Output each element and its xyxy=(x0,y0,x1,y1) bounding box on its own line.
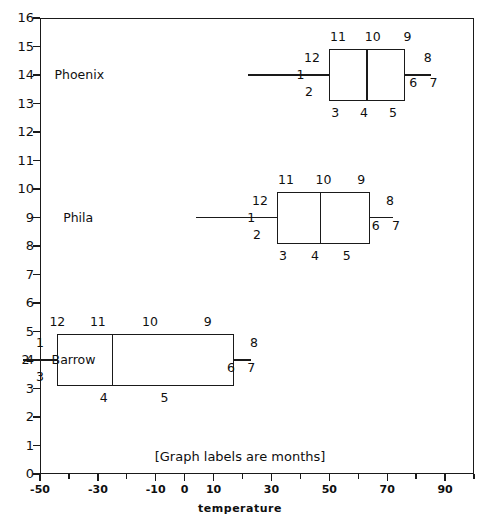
month-label: 7 xyxy=(419,76,447,89)
month-label: 11 xyxy=(272,173,300,186)
x-axis-tick-label: 10 xyxy=(192,484,236,495)
month-label: 1 xyxy=(286,68,314,81)
y-axis-tick-label: 0 xyxy=(2,467,34,480)
y-axis-tick xyxy=(33,302,40,303)
x-axis-minor-tick xyxy=(415,474,416,479)
y-axis-tick-label: 12 xyxy=(2,125,34,138)
y-axis-tick xyxy=(33,74,40,75)
box-barrow xyxy=(57,334,233,386)
month-label: 3 xyxy=(269,249,297,262)
x-axis-minor-tick xyxy=(242,474,243,479)
y-axis-tick-label: 2 xyxy=(2,410,34,423)
y-axis-tick xyxy=(33,103,40,104)
month-label: 11 xyxy=(324,30,352,43)
month-label: 7 xyxy=(237,361,265,374)
series-label-phoenix: Phoenix xyxy=(54,68,104,81)
y-axis-tick-label: 14 xyxy=(2,68,34,81)
y-axis-tick-label: 6 xyxy=(2,296,34,309)
month-label: 2 xyxy=(12,353,40,366)
month-label: 1 xyxy=(237,211,265,224)
month-label: 7 xyxy=(382,219,410,232)
x-axis-tick-label: 50 xyxy=(307,484,351,495)
y-axis-tick xyxy=(33,188,40,189)
y-axis-tick xyxy=(33,274,40,275)
y-axis-tick-label: 7 xyxy=(2,268,34,281)
x-axis-tick xyxy=(329,474,330,481)
x-axis-tick xyxy=(39,474,40,481)
y-axis-tick xyxy=(33,17,40,18)
month-label: 4 xyxy=(301,249,329,262)
y-axis-tick xyxy=(33,160,40,161)
month-label: 2 xyxy=(243,228,271,241)
x-axis-tick xyxy=(387,474,388,481)
series-label-phila: Phila xyxy=(63,211,93,224)
y-axis-tick-label: 11 xyxy=(2,154,34,167)
y-axis-tick-label: 9 xyxy=(2,211,34,224)
month-label: 9 xyxy=(194,315,222,328)
x-axis-tick-label: -50 xyxy=(18,484,62,495)
month-label: 8 xyxy=(414,51,442,64)
x-axis-tick-label: 30 xyxy=(249,484,293,495)
month-label: 12 xyxy=(246,194,274,207)
x-axis-tick-label: 70 xyxy=(365,484,409,495)
y-axis-tick xyxy=(33,416,40,417)
x-axis-tick xyxy=(271,474,272,481)
y-axis-tick xyxy=(33,245,40,246)
month-label: 1 xyxy=(26,336,54,349)
chart-annotation: [Graph labels are months] xyxy=(120,450,360,464)
box-plot-chart: 012345678910111213141516-50-30-100103050… xyxy=(0,0,482,520)
x-axis-tick xyxy=(184,474,185,481)
month-label: 10 xyxy=(359,30,387,43)
x-axis-tick xyxy=(97,474,98,481)
month-label: 12 xyxy=(298,51,326,64)
month-label: 4 xyxy=(90,391,118,404)
x-axis-minor-tick xyxy=(358,474,359,479)
month-label: 8 xyxy=(240,336,268,349)
y-axis-tick xyxy=(33,331,40,332)
y-axis-tick-label: 13 xyxy=(2,97,34,110)
x-axis-minor-tick xyxy=(473,474,474,479)
x-axis-tick xyxy=(213,474,214,481)
month-label: 9 xyxy=(393,30,421,43)
month-label: 2 xyxy=(295,85,323,98)
y-axis-tick xyxy=(33,388,40,389)
month-label: 12 xyxy=(43,315,71,328)
y-axis-tick-label: 15 xyxy=(2,40,34,53)
month-label: 5 xyxy=(379,106,407,119)
y-axis-tick xyxy=(33,445,40,446)
y-axis-tick xyxy=(33,217,40,218)
x-axis-tick-label: -30 xyxy=(76,484,120,495)
y-axis-tick-label: 3 xyxy=(2,382,34,395)
month-label: 9 xyxy=(347,173,375,186)
y-axis-tick xyxy=(33,131,40,132)
y-axis-tick-label: 1 xyxy=(2,439,34,452)
median-line-phila xyxy=(320,192,321,244)
month-label: 11 xyxy=(84,315,112,328)
x-axis-tick xyxy=(444,474,445,481)
month-label: 3 xyxy=(26,370,54,383)
median-line-barrow xyxy=(112,334,113,386)
x-axis-minor-tick xyxy=(126,474,127,479)
x-axis-tick xyxy=(155,474,156,481)
x-axis-minor-tick xyxy=(68,474,69,479)
month-label: 10 xyxy=(310,173,338,186)
month-label: 10 xyxy=(136,315,164,328)
y-axis-tick-label: 16 xyxy=(2,11,34,24)
month-label: 4 xyxy=(350,106,378,119)
month-label: 5 xyxy=(150,391,178,404)
x-axis-title: temperature xyxy=(120,502,360,515)
y-axis-tick-label: 10 xyxy=(2,182,34,195)
y-axis-tick xyxy=(33,46,40,47)
median-line-phoenix xyxy=(366,49,367,101)
y-axis-tick-label: 8 xyxy=(2,239,34,252)
month-label: 5 xyxy=(333,249,361,262)
x-axis-minor-tick xyxy=(300,474,301,479)
x-axis-tick-label: 90 xyxy=(423,484,467,495)
month-label: 8 xyxy=(376,194,404,207)
box-phila xyxy=(277,192,370,244)
month-label: 3 xyxy=(321,106,349,119)
